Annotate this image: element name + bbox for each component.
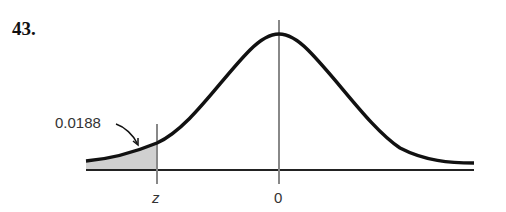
normal-curve-diagram [0, 0, 506, 212]
zero-tick-label: 0 [274, 189, 282, 206]
arrow-icon [116, 124, 137, 143]
z-tick-label: z [152, 189, 160, 206]
area-label: 0.0188 [55, 114, 101, 131]
